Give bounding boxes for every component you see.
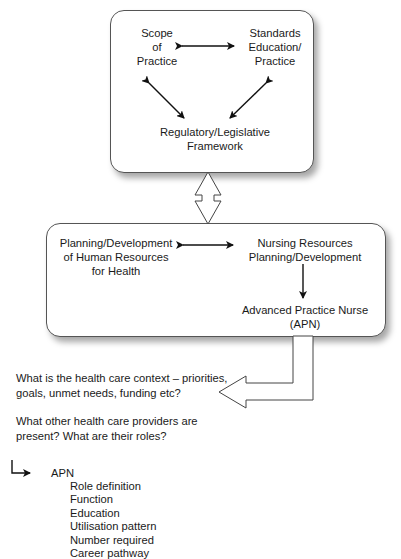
providers-question: What other health care providers are pre… [16,414,198,444]
apn-list-title: APN [51,466,74,481]
apn-list: Role definition Function Education Utili… [70,480,156,559]
list-item: Role definition [70,480,156,493]
health-care-context-question: What is the health care context – priori… [16,371,227,401]
list-item: Number required [70,534,156,547]
list-item: Education [70,507,156,520]
hollow-elbow-arrow-icon [219,336,313,408]
hollow-double-arrow-icon [195,172,221,224]
list-item: Utilisation pattern [70,520,156,533]
list-item: Career pathway [70,547,156,559]
list-item: Function [70,493,156,506]
double-arrow-icon [12,46,303,473]
